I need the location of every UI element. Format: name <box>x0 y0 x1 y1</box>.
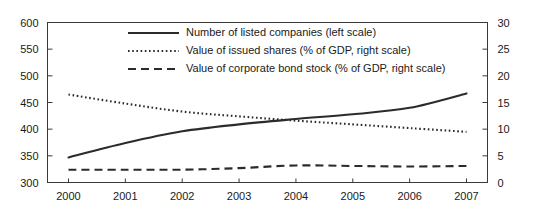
left-axis-tick-labels: 300350400450500550600 <box>20 17 38 189</box>
left-tick-label: 400 <box>20 123 38 135</box>
right-axis-tick-labels: 051015202530 <box>498 17 510 189</box>
bottom-tick-label: 2004 <box>284 190 308 202</box>
bottom-tick-label: 2002 <box>170 190 194 202</box>
bottom-tick-label: 2005 <box>341 190 365 202</box>
left-tick-label: 350 <box>20 150 38 162</box>
chart-canvas: 300350400450500550600 051015202530 20002… <box>0 0 534 217</box>
bottom-tick-label: 2007 <box>454 190 478 202</box>
bottom-tick-label: 2003 <box>227 190 251 202</box>
legend-label-1: Value of issued shares (% of GDP, right … <box>186 44 411 56</box>
bottom-axis-tick-labels: 20002001200220032004200520062007 <box>56 190 478 202</box>
series-line-2 <box>69 165 467 169</box>
bottom-axis-ticks <box>69 179 467 183</box>
right-tick-label: 0 <box>498 177 504 189</box>
right-axis-ticks <box>483 49 488 156</box>
bottom-tick-label: 2001 <box>113 190 137 202</box>
data-series-layer <box>69 93 467 169</box>
right-tick-label: 5 <box>498 150 504 162</box>
right-tick-label: 20 <box>498 70 510 82</box>
bottom-tick-label: 2000 <box>56 190 80 202</box>
left-tick-label: 450 <box>20 97 38 109</box>
bottom-tick-label: 2006 <box>397 190 421 202</box>
right-tick-label: 15 <box>498 97 510 109</box>
series-line-1 <box>69 95 467 132</box>
chart-figure: 300350400450500550600 051015202530 20002… <box>0 0 534 217</box>
left-tick-label: 550 <box>20 43 38 55</box>
right-tick-label: 30 <box>498 17 510 29</box>
left-tick-label: 500 <box>20 70 38 82</box>
legend-label-2: Value of corporate bond stock (% of GDP,… <box>186 62 445 74</box>
right-tick-label: 25 <box>498 43 510 55</box>
left-tick-label: 600 <box>20 17 38 29</box>
chart-legend: Number of listed companies (left scale)V… <box>128 26 445 74</box>
right-tick-label: 10 <box>498 123 510 135</box>
left-tick-label: 300 <box>20 177 38 189</box>
legend-label-0: Number of listed companies (left scale) <box>186 26 376 38</box>
left-axis-ticks <box>48 49 53 156</box>
